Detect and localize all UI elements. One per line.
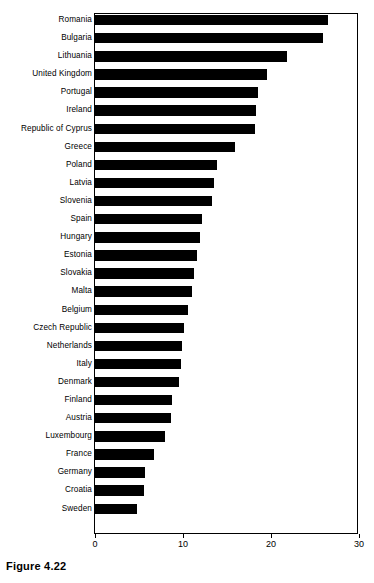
category-label: Latvia (0, 177, 92, 189)
category-label: Malta (0, 285, 92, 297)
category-label: United Kingdom (0, 68, 92, 80)
x-tick-label: 20 (256, 539, 286, 550)
bar (95, 69, 267, 79)
bar-row: Portugal (0, 86, 374, 104)
category-label: Croatia (0, 484, 92, 496)
bar-row: Ireland (0, 104, 374, 122)
bar-row: Estonia (0, 249, 374, 267)
bar (95, 504, 137, 514)
category-label: Greece (0, 141, 92, 153)
bar (95, 51, 287, 61)
bar-row: Germany (0, 466, 374, 484)
bar (95, 15, 328, 25)
bar (95, 341, 182, 351)
bar (95, 178, 214, 188)
bar-row: Greece (0, 141, 374, 159)
bar-row: France (0, 448, 374, 466)
bar-row: Belgium (0, 304, 374, 322)
category-label: Portugal (0, 86, 92, 98)
x-axis: 0102030 (0, 534, 374, 558)
category-label: Hungary (0, 231, 92, 243)
figure-caption: Figure 4.22 (6, 560, 66, 572)
bar-row: Romania (0, 14, 374, 32)
x-tick-mark (271, 534, 272, 538)
category-label: Estonia (0, 249, 92, 261)
bar-row: Slovakia (0, 267, 374, 285)
category-label: Austria (0, 412, 92, 424)
category-label: Poland (0, 159, 92, 171)
bar-rows: RomaniaBulgariaLithuaniaUnited KingdomPo… (0, 14, 374, 521)
bar (95, 413, 171, 423)
bar (95, 323, 184, 333)
bar (95, 250, 197, 260)
x-tick-label: 30 (344, 539, 374, 550)
x-tick-label: 0 (80, 539, 110, 550)
bar (95, 467, 145, 477)
category-label: Romania (0, 14, 92, 26)
bar-row: Italy (0, 358, 374, 376)
category-label: Spain (0, 213, 92, 225)
bar (95, 305, 188, 315)
bar (95, 160, 217, 170)
category-label: Lithuania (0, 50, 92, 62)
bar-row: Netherlands (0, 340, 374, 358)
bar (95, 395, 172, 405)
bar-row: Sweden (0, 503, 374, 521)
bar-row: Bulgaria (0, 32, 374, 50)
bar (95, 87, 258, 97)
category-label: Denmark (0, 376, 92, 388)
bar-row: Czech Republic (0, 322, 374, 340)
bar (95, 214, 202, 224)
category-label: Italy (0, 358, 92, 370)
bar (95, 449, 154, 459)
bar-row: Denmark (0, 376, 374, 394)
category-label: Belgium (0, 304, 92, 316)
category-label: Republic of Cyprus (0, 123, 92, 135)
category-label: Netherlands (0, 340, 92, 352)
bar (95, 105, 256, 115)
bar (95, 33, 323, 43)
bar-row: United Kingdom (0, 68, 374, 86)
bar-row: Hungary (0, 231, 374, 249)
x-tick-mark (359, 534, 360, 538)
bar (95, 232, 200, 242)
bar (95, 485, 144, 495)
category-label: Czech Republic (0, 322, 92, 334)
category-label: Finland (0, 394, 92, 406)
bar-row: Austria (0, 412, 374, 430)
bar (95, 377, 179, 387)
bar-row: Malta (0, 285, 374, 303)
x-tick-label: 10 (168, 539, 198, 550)
bar-row: Luxembourg (0, 430, 374, 448)
bar (95, 196, 212, 206)
category-label: Luxembourg (0, 430, 92, 442)
category-label: Slovakia (0, 267, 92, 279)
bar-row: Latvia (0, 177, 374, 195)
bar-row: Croatia (0, 484, 374, 502)
bar (95, 431, 165, 441)
bar-row: Poland (0, 159, 374, 177)
category-label: Bulgaria (0, 32, 92, 44)
bar (95, 286, 192, 296)
x-tick-mark (95, 534, 96, 538)
bar (95, 359, 181, 369)
figure-container: RomaniaBulgariaLithuaniaUnited KingdomPo… (0, 0, 374, 583)
x-tick-mark (183, 534, 184, 538)
bar-chart: RomaniaBulgariaLithuaniaUnited KingdomPo… (0, 0, 374, 545)
bar (95, 142, 235, 152)
category-label: France (0, 448, 92, 460)
bar (95, 268, 194, 278)
bar-row: Spain (0, 213, 374, 231)
category-label: Ireland (0, 104, 92, 116)
category-label: Slovenia (0, 195, 92, 207)
bar-row: Republic of Cyprus (0, 123, 374, 141)
bar-row: Finland (0, 394, 374, 412)
category-label: Germany (0, 466, 92, 478)
bar-row: Lithuania (0, 50, 374, 68)
category-label: Sweden (0, 503, 92, 515)
bar (95, 124, 255, 134)
bar-row: Slovenia (0, 195, 374, 213)
